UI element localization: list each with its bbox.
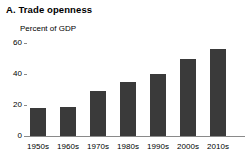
y-axis-tick-label: 60 [6, 39, 22, 47]
x-axis-tick-label: 2000s [171, 142, 205, 151]
bar [90, 91, 106, 136]
x-axis-line [27, 136, 245, 137]
x-axis-tick-label: 2010s [201, 142, 235, 151]
y-axis-tick-mark [24, 43, 27, 44]
bar [60, 107, 76, 136]
y-axis-tick-mark [24, 74, 27, 75]
y-axis-tick-label: 0 [6, 132, 22, 140]
y-axis-tick-label: 40 [6, 70, 22, 78]
y-axis-tick-mark [24, 105, 27, 106]
chart-panel: A. Trade openness Percent of GDP 0204060… [0, 0, 249, 161]
bar [150, 74, 166, 136]
bar [30, 108, 46, 136]
x-axis-tick-label: 1990s [141, 142, 175, 151]
plot-area: 0204060 1950s1960s1970s1980s1990s2000s20… [0, 0, 249, 161]
bar [180, 59, 196, 137]
x-axis-tick-label: 1960s [51, 142, 85, 151]
x-axis-tick-label: 1950s [21, 142, 55, 151]
y-axis-tick-mark [24, 136, 27, 137]
bar [210, 49, 226, 136]
x-axis-tick-label: 1980s [111, 142, 145, 151]
x-axis-tick-label: 1970s [81, 142, 115, 151]
y-axis-tick-label: 20 [6, 101, 22, 109]
bar [120, 82, 136, 136]
